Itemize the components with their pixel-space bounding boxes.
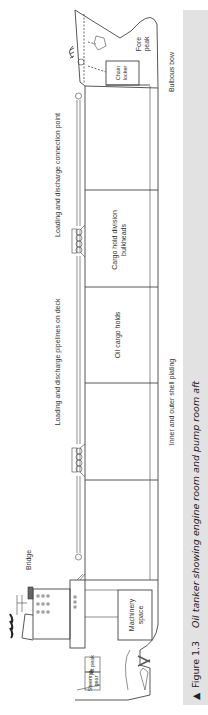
fore-peak-label-1: Fore — [135, 37, 142, 52]
window — [42, 595, 44, 597]
inner-outer-plating-label: Inner and outer shell plating — [168, 359, 176, 445]
deck-pipelines — [72, 93, 85, 560]
funnel — [22, 614, 33, 640]
aft-peak-label: Aft peak — [89, 655, 95, 675]
pipelines-on-deck-label: Loading and discharge pipelines on deck — [54, 298, 62, 425]
chain-locker-label-1: Chain — [115, 66, 121, 80]
oil-tanker-diagram: ▲ Figure 1.3 Oil tanker showing engine r… — [0, 0, 208, 715]
stern-frame — [125, 650, 130, 690]
caption-title: Oil tanker showing engine room and pump … — [190, 380, 201, 628]
manifold-connection-1 — [72, 225, 85, 257]
window — [74, 596, 76, 598]
pipe-end-fwd — [76, 93, 82, 99]
oil-cargo-holds-label: Oil cargo holds — [114, 311, 122, 358]
window — [42, 611, 44, 613]
stern-compartments: Machinery space Steering gear Aft peak — [77, 590, 152, 691]
poop-deck-block — [70, 580, 85, 648]
machinery-space-label-2: space — [137, 606, 145, 625]
funnel-smoke-icon — [10, 614, 12, 638]
bridge-label: Bridge — [25, 550, 33, 570]
window — [47, 611, 49, 613]
poop-stair — [77, 574, 83, 580]
machinery-space-label-1: Machinery — [128, 598, 136, 631]
bridge-block — [33, 589, 70, 639]
window — [47, 603, 49, 605]
fore-peak-label-2: peak — [143, 36, 151, 52]
chain-pipe-line — [88, 66, 106, 72]
rudder-icon — [140, 668, 148, 690]
poop-windows — [74, 596, 76, 608]
manifold-connection-2 — [72, 444, 85, 477]
hawse-pipe-line — [88, 42, 96, 44]
fore-section: Chain locker Fore peak Bulbous bow — [70, 36, 176, 92]
mast-icon — [17, 595, 27, 615]
bridge-wing — [28, 587, 33, 599]
caption-figure-number: Figure 1.3 — [190, 641, 201, 688]
window — [47, 595, 49, 597]
window — [74, 606, 76, 608]
window — [42, 603, 44, 605]
window — [74, 601, 76, 603]
cargo-hold-division-line-2: bulkheads — [120, 224, 127, 256]
pipe-end-aft — [76, 554, 82, 560]
chain-locker-label-2: locker — [122, 65, 128, 80]
caption-marker: ▲ — [190, 692, 201, 700]
superstructure: Bridge — [10, 550, 85, 648]
cargo-hold-division-label: Cargo hold division bulkheads — [111, 210, 127, 270]
bulbous-bow-label: Bulbous bow — [168, 51, 175, 92]
connection-point-label: Loading and discharge connection point — [54, 113, 62, 237]
figure-caption: ▲ Figure 1.3 Oil tanker showing engine r… — [183, 10, 208, 705]
windlass-gear-icon — [70, 46, 75, 58]
anchor-icon — [94, 36, 106, 50]
cargo-hold-division-line-1: Cargo hold division — [111, 210, 119, 270]
window — [37, 595, 39, 597]
machinery-space-box — [118, 590, 152, 640]
bridge-windows — [37, 595, 49, 613]
steering-gear-label-2: gear — [93, 675, 99, 686]
window — [37, 603, 39, 605]
window — [37, 611, 39, 613]
